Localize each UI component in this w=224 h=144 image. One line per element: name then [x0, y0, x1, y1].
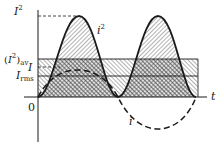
- label-i-squared-average: (I2)av: [4, 53, 28, 67]
- label-origin: 0: [28, 102, 35, 113]
- label-i-squared-peak: I2: [14, 5, 23, 17]
- label-i-rms: Irms: [16, 70, 34, 83]
- label-curve-i: i: [129, 116, 133, 127]
- label-curve-i-squared: i2: [97, 24, 105, 36]
- label-time-axis: t: [211, 91, 215, 102]
